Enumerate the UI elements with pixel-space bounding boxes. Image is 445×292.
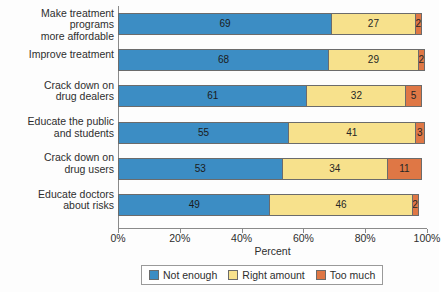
legend-label: Not enough [163, 269, 217, 281]
bar-value-label: 34 [329, 164, 340, 174]
bar-value-label: 2 [412, 200, 418, 210]
bar-row: 69272 [118, 13, 427, 35]
bar-segment: 11 [387, 158, 422, 180]
bar-value-label: 5 [411, 91, 417, 101]
bar-value-label: 49 [189, 200, 200, 210]
x-axis-tick-label: 40% [219, 232, 265, 244]
bar-value-label: 2 [415, 19, 421, 29]
category-label: Educate doctors about risks [0, 189, 114, 212]
legend-item: Too much [316, 269, 376, 281]
category-axis-labels: Make treatment programs more affordableI… [0, 0, 114, 228]
bar-row: 68292 [118, 49, 427, 71]
bar-value-label: 29 [368, 55, 379, 65]
x-axis-tick-label: 60% [280, 232, 326, 244]
category-label: Crack down on drug users [0, 152, 114, 175]
bar-value-label: 53 [195, 164, 206, 174]
bar-segment: 34 [282, 158, 388, 180]
bar-row: 533411 [118, 158, 427, 180]
legend-swatch-icon [228, 270, 238, 280]
bar-value-label: 46 [335, 200, 346, 210]
bar-value-label: 27 [368, 19, 379, 29]
bar-value-label: 41 [346, 128, 357, 138]
x-axis-tick-label: 0% [95, 232, 141, 244]
bar-segment: 68 [118, 49, 329, 71]
bar-segment: 41 [288, 122, 416, 144]
x-axis-tick-label: 100% [404, 232, 445, 244]
bar-segment: 29 [328, 49, 419, 71]
bar-row: 55413 [118, 122, 427, 144]
x-axis-title: Percent [118, 245, 427, 257]
chart-legend: Not enoughRight amountToo much [141, 265, 383, 285]
bar-row: 49462 [118, 194, 427, 216]
bar-segment: 3 [415, 122, 425, 144]
bar-value-label: 61 [207, 91, 218, 101]
x-axis-tick-labels: 0%20%40%60%80%100% [118, 232, 427, 246]
x-axis-tick-label: 80% [342, 232, 388, 244]
legend-swatch-icon [149, 270, 159, 280]
bar-segment: 2 [418, 49, 425, 71]
bar-segment: 2 [412, 194, 419, 216]
legend-item: Not enough [149, 269, 217, 281]
bar-segment: 46 [269, 194, 412, 216]
bar-segment: 5 [405, 85, 421, 107]
x-axis-line [118, 228, 427, 229]
bar-segment: 32 [306, 85, 406, 107]
bar-value-label: 32 [351, 91, 362, 101]
bar-segment: 2 [415, 13, 422, 35]
category-label: Educate the public and students [0, 116, 114, 139]
bar-value-label: 69 [220, 19, 231, 29]
x-axis-tick-label: 20% [157, 232, 203, 244]
bar-segment: 69 [118, 13, 332, 35]
legend-label: Right amount [242, 269, 304, 281]
bar-row: 61325 [118, 85, 427, 107]
legend-label: Too much [330, 269, 376, 281]
bar-segment: 49 [118, 194, 270, 216]
category-label: Crack down on drug dealers [0, 80, 114, 103]
category-label: Improve treatment [0, 49, 114, 61]
legend-item: Right amount [228, 269, 304, 281]
bar-value-label: 68 [218, 55, 229, 65]
plot-area: 6927268292613255541353341149462 [118, 6, 427, 228]
category-label: Make treatment programs more affordable [0, 8, 114, 43]
bar-segment: 53 [118, 158, 283, 180]
bar-value-label: 11 [399, 164, 409, 174]
bar-segment: 27 [331, 13, 415, 35]
bar-value-label: 3 [417, 128, 423, 138]
bar-segment: 55 [118, 122, 289, 144]
bar-value-label: 2 [419, 55, 425, 65]
bar-segment: 61 [118, 85, 307, 107]
bar-value-label: 55 [198, 128, 209, 138]
legend-swatch-icon [316, 270, 326, 280]
